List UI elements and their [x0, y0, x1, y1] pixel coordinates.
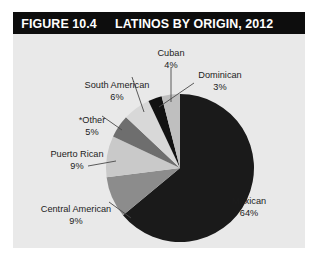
pie-label-puerto-rican-pct: 9% [39, 161, 115, 173]
pie-label-other-pct: 5% [64, 127, 120, 139]
figure-container: FIGURE 10.4 LATINOS BY ORIGIN, 2012 [0, 0, 321, 265]
title-divider [104, 12, 115, 34]
pie-label-mexican: Mexican 64% [219, 196, 279, 219]
pie-label-south-american-pct: 6% [75, 92, 159, 104]
figure-number: FIGURE 10.4 [13, 16, 97, 31]
pie-label-central-american-pct: 9% [28, 216, 124, 228]
pie-label-other: *Other 5% [64, 115, 120, 138]
pie-label-central-american: Central American 9% [28, 204, 124, 227]
figure-title-bar: FIGURE 10.4 LATINOS BY ORIGIN, 2012 [13, 12, 305, 34]
pie-chart-panel: Cuban 4% Dominican 3% South American 6% … [13, 34, 305, 248]
pie-label-cuban-name: Cuban [141, 48, 201, 60]
pie-label-south-american-name: South American [75, 80, 159, 92]
page-title: LATINOS BY ORIGIN, 2012 [115, 16, 273, 31]
pie-label-dominican-name: Dominican [189, 70, 251, 82]
pie-label-mexican-pct: 64% [219, 208, 279, 220]
pie-label-other-name: *Other [64, 115, 120, 127]
pie-label-puerto-rican-name: Puerto Rican [39, 149, 115, 161]
pie-label-central-american-name: Central American [28, 204, 124, 216]
pie-label-mexican-name: Mexican [219, 196, 279, 208]
pie-label-cuban: Cuban 4% [141, 48, 201, 71]
pie-slices [106, 94, 254, 242]
pie-label-south-american: South American 6% [75, 80, 159, 103]
pie-label-puerto-rican: Puerto Rican 9% [39, 149, 115, 172]
pie-label-dominican: Dominican 3% [189, 70, 251, 93]
pie-label-dominican-pct: 3% [189, 82, 251, 94]
